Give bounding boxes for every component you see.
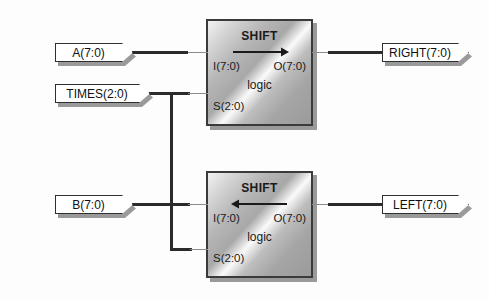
wire-b-to-shift-left-in-tail [188, 204, 208, 205]
shift-left-pin-out: O(7:0) [273, 212, 306, 224]
wire-times-to-shift-left-sel-tail [190, 249, 208, 250]
circuit-diagram-canvas: SHIFT I(7:0) O(7:0) logic S(2:0) SHIFT I… [0, 0, 489, 301]
shift-right-pin-sel: S(2:0) [213, 100, 244, 112]
shift-right-arrow-icon [208, 47, 311, 57]
a-input-port-label: A(7:0) [72, 46, 105, 60]
wire-b-to-shift-left-in [132, 203, 190, 206]
b-input-port-label: B(7:0) [72, 198, 105, 212]
right-output-port-label: RIGHT(7:0) [389, 46, 451, 60]
left-output-port-label: LEFT(7:0) [393, 198, 447, 212]
shift-right-block-subtitle: logic [208, 78, 311, 92]
shift-right-pin-out: O(7:0) [273, 60, 306, 72]
wire-times-to-shift-right-sel-tail [188, 93, 208, 94]
shift-right-pin-in: I(7:0) [213, 60, 240, 72]
left-output-port[interactable]: LEFT(7:0) [382, 195, 469, 214]
times-input-port-label: TIMES(2:0) [66, 87, 127, 101]
wire-shift-right-out-to-right-port [328, 51, 384, 54]
b-input-port[interactable]: B(7:0) [55, 195, 133, 214]
shift-right-block-title: SHIFT [208, 29, 311, 43]
shift-left-block-subtitle: logic [208, 230, 311, 244]
wire-a-to-shift-right-in-tail [188, 52, 208, 53]
wire-shift-left-out-to-left-port [328, 203, 384, 206]
shift-left-block[interactable]: SHIFT I(7:0) O(7:0) logic S(2:0) [206, 171, 313, 278]
wire-times-to-shift-left-sel [170, 248, 192, 251]
shift-right-block[interactable]: SHIFT I(7:0) O(7:0) logic S(2:0) [206, 19, 313, 126]
right-output-port[interactable]: RIGHT(7:0) [382, 43, 469, 62]
shift-left-block-title: SHIFT [208, 181, 311, 195]
wire-times-to-junction [146, 92, 190, 95]
shift-left-arrow-icon [208, 199, 311, 209]
a-input-port[interactable]: A(7:0) [55, 43, 133, 62]
wire-times-vertical-drop [170, 92, 173, 251]
shift-left-pin-in: I(7:0) [213, 212, 240, 224]
wire-a-to-shift-right-in [132, 51, 188, 54]
times-input-port[interactable]: TIMES(2:0) [55, 84, 150, 103]
shift-left-pin-sel: S(2:0) [213, 252, 244, 264]
